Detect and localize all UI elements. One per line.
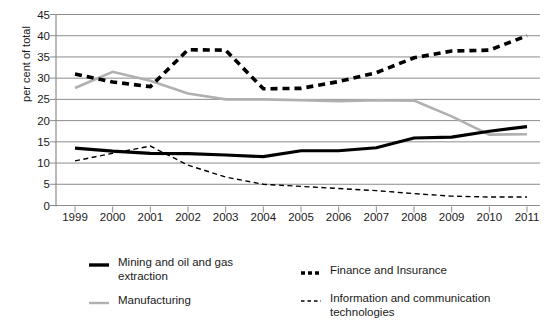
- legend-label-ict: Information and communication technologi…: [330, 292, 520, 319]
- legend-label-finance: Finance and Insurance: [330, 264, 447, 278]
- chart-legend: Mining and oil and gas extractionFinance…: [0, 252, 557, 332]
- plot-area: [0, 0, 557, 230]
- legend-label-manufacturing: Manufacturing: [118, 294, 191, 308]
- legend-swatch-manufacturing-icon: [88, 295, 110, 309]
- legend-item-ict[interactable]: Information and communication technologi…: [300, 292, 524, 319]
- legend-item-manufacturing[interactable]: Manufacturing: [88, 294, 252, 308]
- legend-item-finance[interactable]: Finance and Insurance: [300, 264, 484, 278]
- series-line-finance: [75, 36, 527, 89]
- legend-swatch-mining-icon: [88, 257, 110, 271]
- legend-swatch-finance-icon: [300, 265, 322, 279]
- legend-swatch-ict-icon: [300, 293, 322, 307]
- chart-container: per cent of total 051015202530354045 199…: [0, 0, 557, 332]
- legend-label-mining: Mining and oil and gas extraction: [118, 256, 248, 283]
- series-line-manufacturing: [75, 72, 527, 135]
- legend-item-mining[interactable]: Mining and oil and gas extraction: [88, 256, 252, 283]
